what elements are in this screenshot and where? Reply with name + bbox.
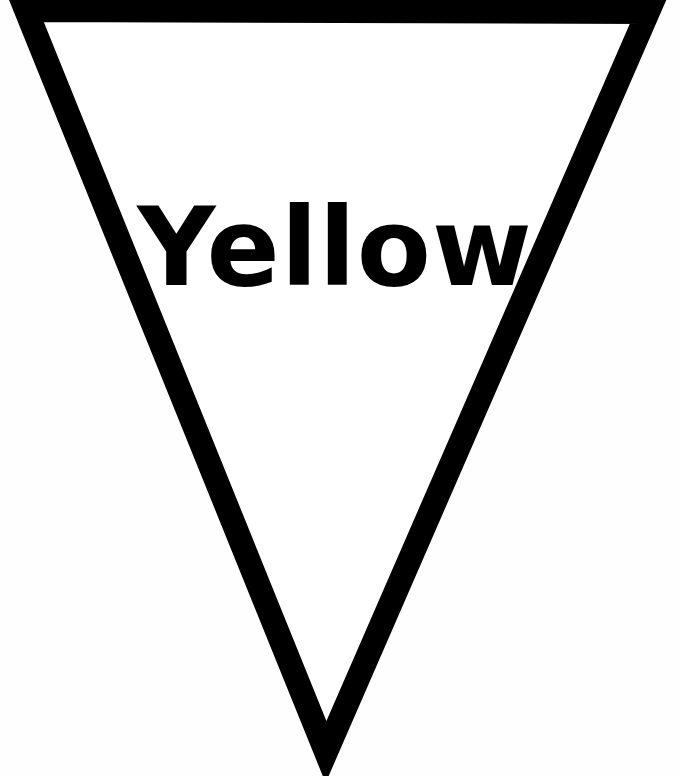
- triangle-pennant-outline: [0, 0, 680, 776]
- pennant-page: Yellow: [0, 0, 680, 776]
- pennant-label: Yellow: [170, 182, 500, 312]
